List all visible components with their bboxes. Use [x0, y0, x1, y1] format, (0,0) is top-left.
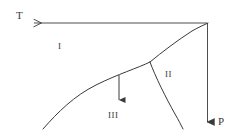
axis-label-t: T	[16, 10, 23, 21]
axis-label-p: P	[218, 116, 224, 127]
region-label-iii: III	[108, 111, 119, 120]
region-label-ii: II	[165, 70, 172, 79]
phase-boundary-i-iii	[43, 62, 150, 129]
phase-boundary-i-ii	[150, 23, 208, 62]
region-label-i: I	[58, 42, 62, 51]
phase-diagram-figure: T P I II III	[0, 0, 234, 138]
